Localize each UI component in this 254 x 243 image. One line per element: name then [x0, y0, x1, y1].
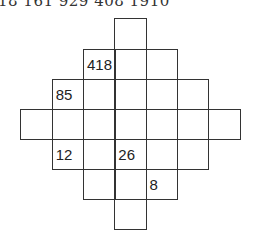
cell-number: 8: [150, 176, 158, 193]
grid-cell: 12: [52, 139, 85, 170]
grid-cell: 85: [52, 79, 85, 110]
grid-cell: [146, 49, 179, 80]
grid-cell: [114, 79, 147, 110]
grid-cell: 26: [114, 139, 147, 170]
grid-cell: [208, 109, 241, 140]
cell-number: 85: [56, 86, 73, 103]
grid-cell: 418: [83, 49, 116, 80]
grid-cell: [114, 169, 147, 200]
grid-cell: [83, 169, 116, 200]
grid-cell: [146, 139, 179, 170]
grid-cell: [52, 109, 85, 140]
grid-cell: [83, 139, 116, 170]
grid-cell: [114, 109, 147, 140]
cell-number: 12: [56, 146, 73, 163]
cell-number: 26: [118, 146, 135, 163]
cell-number: 418: [87, 56, 112, 73]
diamond-number-grid: 4188512268: [0, 0, 254, 243]
grid-cell: [20, 109, 53, 140]
grid-cell: [114, 199, 147, 230]
grid-cell: [83, 79, 116, 110]
grid-cell: [146, 79, 179, 110]
grid-cell: [114, 18, 147, 49]
grid-cell: [177, 139, 210, 170]
grid-cell: [146, 109, 179, 140]
grid-cell: 8: [146, 169, 179, 200]
grid-cell: [114, 49, 147, 80]
grid-cell: [83, 109, 116, 140]
grid-cell: [177, 79, 210, 110]
grid-cell: [177, 109, 210, 140]
